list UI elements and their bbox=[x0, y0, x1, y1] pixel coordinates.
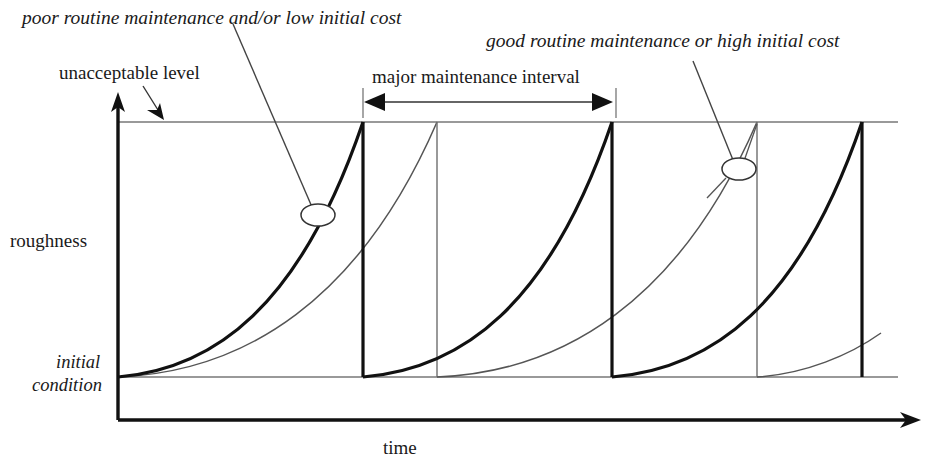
x-axis-label: time bbox=[383, 438, 417, 457]
initial-condition-label-line2: condition bbox=[32, 376, 102, 395]
unacceptable-level-label: unacceptable level bbox=[59, 63, 200, 82]
roughness-deterioration-diagram: poor routine maintenance and/or low init… bbox=[0, 0, 928, 472]
y-axis-label: roughness bbox=[10, 231, 87, 250]
good-maintenance-leader-line-secondary bbox=[744, 124, 757, 161]
initial-condition-label-line1: initial bbox=[56, 353, 100, 372]
bold-curve-cycle-2 bbox=[363, 122, 612, 377]
poor-maintenance-leader-line bbox=[233, 24, 312, 207]
thin-curve-cycle-1 bbox=[118, 122, 437, 377]
unacceptable-level-pointer-line bbox=[143, 86, 158, 110]
interval-arrowhead-left bbox=[364, 93, 385, 111]
major-maintenance-interval-label: major maintenance interval bbox=[372, 67, 580, 86]
good-maintenance-label: good routine maintenance or high initial… bbox=[486, 31, 840, 51]
poor-maintenance-callout-marker bbox=[301, 204, 335, 226]
poor-maintenance-label: poor routine maintenance and/or low init… bbox=[22, 8, 402, 28]
good-maintenance-leader-line bbox=[693, 61, 733, 160]
bold-curve-cycle-1 bbox=[118, 122, 363, 377]
good-maintenance-callout-marker bbox=[722, 158, 756, 180]
interval-arrowhead-right bbox=[592, 93, 613, 111]
